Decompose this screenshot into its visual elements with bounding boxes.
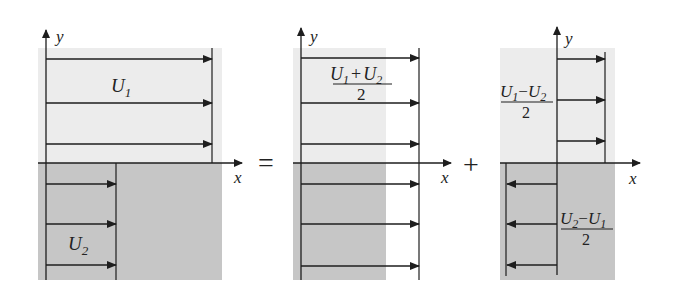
x-axis-label: x [440,168,449,187]
panel-original-profile: y x U1 U2 [38,27,242,280]
svg-text:2: 2 [582,231,590,248]
x-axis-label: x [233,168,242,187]
x-axis-label: x [628,169,637,188]
svg-text:2: 2 [522,104,530,121]
upper-fluid-region [38,48,222,163]
equals-sign: = [258,147,274,178]
plus-sign: + [463,149,479,180]
lower-fluid-region [293,163,386,280]
panel-mean-profile: y x U1+U2 2 [293,27,451,280]
y-axis-label: y [563,29,573,48]
panel-difference-profile: y x U1−U2 2 U2−U1 2 [500,27,640,280]
y-axis-label: y [54,27,64,46]
y-axis-label: y [308,27,318,46]
svg-text:U2−U1: U2−U1 [560,209,606,231]
svg-text:2: 2 [357,85,366,104]
lower-fluid-region [38,163,222,280]
shear-layer-diagram: y x U1 U2 = y x U1+U2 2 + [0,0,673,295]
svg-text:U1−U2: U1−U2 [500,82,546,104]
